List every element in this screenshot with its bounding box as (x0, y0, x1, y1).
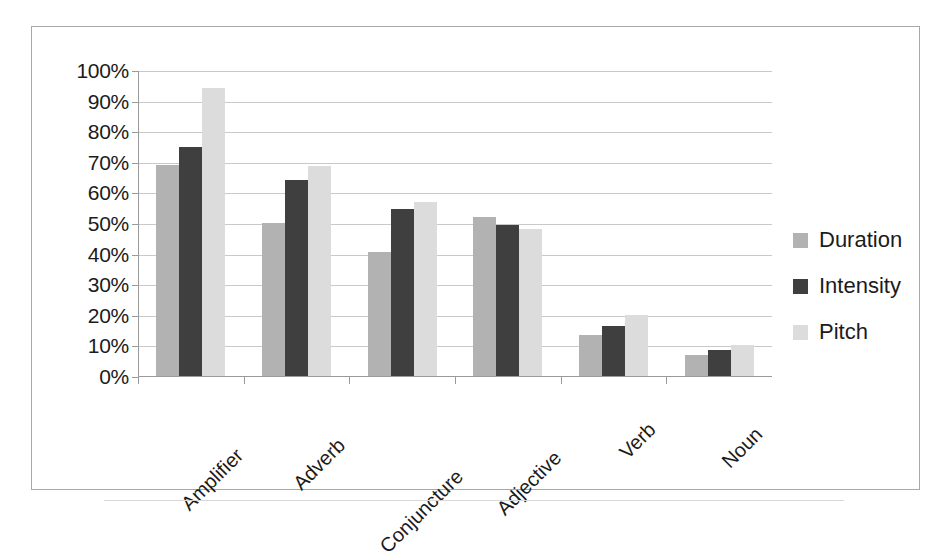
bar-duration-noun (685, 355, 708, 376)
y-axis-tick-label: 10% (88, 334, 129, 358)
bar-intensity-conjuncture (391, 209, 414, 376)
x-axis-label-noun: Noun (717, 423, 767, 473)
gridline (138, 193, 772, 194)
y-axis-tick-label: 70% (88, 151, 129, 175)
gridline (138, 71, 772, 72)
y-axis-tick-label: 30% (88, 273, 129, 297)
y-axis-tick (132, 224, 138, 225)
y-axis-tick-label: 0% (99, 365, 129, 389)
bar-duration-conjuncture (368, 252, 391, 376)
bar-group (368, 71, 437, 376)
x-axis-tick (244, 377, 245, 384)
x-axis-tick (455, 377, 456, 384)
legend-item-duration[interactable]: Duration (793, 217, 943, 263)
legend-label: Pitch (819, 319, 868, 345)
bar-duration-amplifier (156, 165, 179, 376)
bar-pitch-adverb (308, 166, 331, 376)
legend-label: Intensity (819, 273, 901, 299)
bar-pitch-verb (625, 315, 648, 376)
y-axis-line (138, 71, 139, 377)
y-axis-tick-label: 50% (88, 212, 129, 236)
bar-intensity-adverb (285, 180, 308, 376)
bar-group (156, 71, 225, 376)
y-axis-tick (132, 316, 138, 317)
bar-intensity-adjective (496, 225, 519, 376)
x-axis-label-amplifier: Amplifier (177, 444, 248, 515)
legend-label: Duration (819, 227, 902, 253)
y-axis-tick (132, 163, 138, 164)
gridline (138, 163, 772, 164)
y-axis-tick (132, 193, 138, 194)
y-axis-tick-label: 90% (88, 90, 129, 114)
bar-group (579, 71, 648, 376)
gridline (138, 316, 772, 317)
bar-duration-adverb (262, 223, 285, 376)
y-axis-tick (132, 255, 138, 256)
y-axis-tick (132, 102, 138, 103)
gridline (138, 346, 772, 347)
x-axis-tick (138, 377, 139, 384)
bar-intensity-noun (708, 350, 731, 376)
gridline (138, 132, 772, 133)
x-axis-label-adjective: Adjective (492, 446, 566, 520)
bar-intensity-verb (602, 326, 625, 376)
gridline (138, 102, 772, 103)
bar-group (473, 71, 542, 376)
bar-duration-verb (579, 335, 602, 376)
legend-item-intensity[interactable]: Intensity (793, 263, 943, 309)
legend-item-pitch[interactable]: Pitch (793, 309, 943, 355)
chart-legend: DurationIntensityPitch (793, 217, 943, 355)
y-axis-tick (132, 71, 138, 72)
y-axis-tick-label: 100% (76, 59, 129, 83)
y-axis-tick (132, 285, 138, 286)
x-axis-label-verb: Verb (614, 418, 659, 463)
x-axis-tick (666, 377, 667, 384)
pitch-swatch (793, 325, 808, 340)
plot-area: 100%90%80%70%60%50%40%30%20%10%0% Amplif… (138, 71, 772, 377)
bar-group (262, 71, 331, 376)
chart-frame: 100%90%80%70%60%50%40%30%20%10%0% Amplif… (31, 26, 920, 490)
scan-artifact (104, 500, 844, 501)
duration-swatch (793, 233, 808, 248)
bar-pitch-amplifier (202, 88, 225, 376)
x-axis-tick (349, 377, 350, 384)
bar-duration-adjective (473, 217, 496, 376)
bar-pitch-conjuncture (414, 202, 437, 376)
intensity-swatch (793, 279, 808, 294)
bar-group (685, 71, 754, 376)
bar-pitch-adjective (519, 229, 542, 376)
gridline (138, 285, 772, 286)
gridline (138, 255, 772, 256)
x-axis-tick (561, 377, 562, 384)
y-axis-tick-label: 60% (88, 181, 129, 205)
y-axis-tick (132, 132, 138, 133)
bar-intensity-amplifier (179, 147, 202, 377)
bar-pitch-noun (731, 345, 754, 376)
y-axis-tick-label: 20% (88, 304, 129, 328)
gridline (138, 224, 772, 225)
y-axis-tick-label: 40% (88, 243, 129, 267)
y-axis-tick-label: 80% (88, 120, 129, 144)
x-axis-label-conjuncture: Conjuncture (375, 465, 468, 555)
y-axis-tick (132, 346, 138, 347)
x-axis-label-adverb: Adverb (288, 434, 349, 495)
